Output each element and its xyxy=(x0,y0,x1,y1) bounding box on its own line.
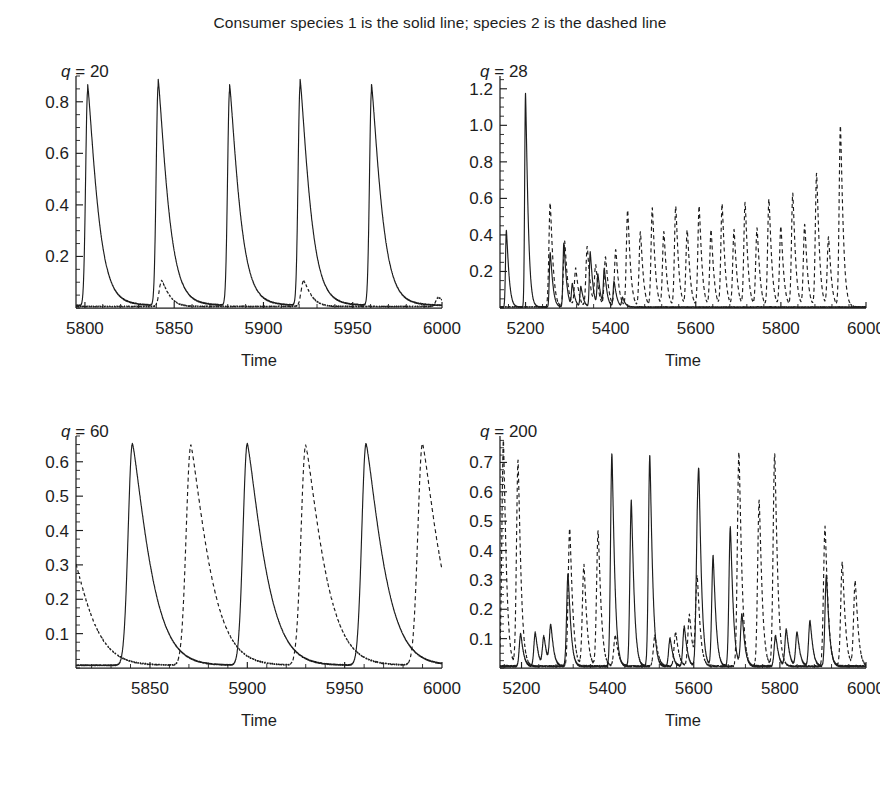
panel-q20-plot: 0.20.40.60.858005850590059506000Time xyxy=(28,58,448,388)
y-tick-label: 0.5 xyxy=(469,512,493,531)
y-tick-label: 0.6 xyxy=(469,189,493,208)
panel-q28-label: q = 28 xyxy=(480,62,528,82)
panel-q28: q = 28 0.20.40.60.81.01.2520054005600580… xyxy=(452,58,872,388)
panel-q200-label: q = 200 xyxy=(480,422,537,442)
y-tick-label: 0.2 xyxy=(45,590,69,609)
x-tick-label: 5800 xyxy=(762,319,800,338)
y-tick-label: 0.2 xyxy=(45,247,69,266)
y-tick-label: 1.2 xyxy=(469,80,493,99)
x-tick-label: 5850 xyxy=(155,319,193,338)
y-tick-label: 0.8 xyxy=(45,93,69,112)
x-tick-label: 6000 xyxy=(847,319,880,338)
x-tick-label: 5200 xyxy=(503,679,541,698)
panel-q20-label-value: 20 xyxy=(90,62,109,81)
y-tick-label: 1.0 xyxy=(469,116,493,135)
y-tick-label: 0.8 xyxy=(469,153,493,172)
panel-q200-label-value: 200 xyxy=(509,422,537,441)
series-line-species-2 xyxy=(76,444,442,666)
panel-q60-plot: 0.10.20.30.40.50.65850590059506000Time xyxy=(28,418,448,748)
panel-q60: q = 60 0.10.20.30.40.50.6585059005950600… xyxy=(28,418,448,748)
x-tick-label: 5950 xyxy=(326,679,364,698)
x-tick-label: 5800 xyxy=(761,679,799,698)
y-tick-label: 0.6 xyxy=(45,144,69,163)
y-tick-label: 0.4 xyxy=(469,226,493,245)
panel-q200-label-eq: = xyxy=(494,422,504,441)
y-tick-label: 0.1 xyxy=(45,625,69,644)
x-tick-label: 5850 xyxy=(131,679,169,698)
x-tick-label: 5800 xyxy=(66,319,104,338)
y-tick-label: 0.4 xyxy=(469,542,493,561)
y-tick-label: 0.3 xyxy=(45,556,69,575)
panel-q60-label: q = 60 xyxy=(61,422,109,442)
x-axis-title: Time xyxy=(241,711,277,729)
x-tick-label: 5400 xyxy=(592,319,630,338)
panel-q200-plot: 0.10.20.30.40.50.60.75200540056005800600… xyxy=(452,418,872,748)
y-tick-label: 0.3 xyxy=(469,571,493,590)
x-axis-title: Time xyxy=(665,711,701,729)
x-tick-label: 5200 xyxy=(507,319,545,338)
series-line-species-1 xyxy=(500,454,866,667)
panel-q28-label-value: 28 xyxy=(509,62,528,81)
y-tick-label: 0.6 xyxy=(469,483,493,502)
y-tick-label: 0.4 xyxy=(45,196,69,215)
panel-q20-label: q = 20 xyxy=(61,62,109,82)
y-tick-label: 0.2 xyxy=(469,262,493,281)
panel-q20-label-eq: = xyxy=(75,62,85,81)
panel-q20: q = 20 0.20.40.60.858005850590059506000T… xyxy=(28,58,448,388)
x-tick-label: 5900 xyxy=(228,679,266,698)
series-line-species-1 xyxy=(76,79,442,306)
x-tick-label: 5900 xyxy=(245,319,283,338)
series-line-species-1 xyxy=(500,93,866,307)
x-tick-label: 5400 xyxy=(589,679,627,698)
x-axis-title: Time xyxy=(241,351,277,369)
x-tick-label: 5600 xyxy=(675,679,713,698)
panel-q28-label-var: q xyxy=(480,62,489,81)
y-tick-label: 0.2 xyxy=(469,600,493,619)
panel-q20-label-var: q xyxy=(61,62,70,81)
y-tick-label: 0.5 xyxy=(45,487,69,506)
x-tick-label: 5600 xyxy=(677,319,715,338)
y-tick-label: 0.1 xyxy=(469,630,493,649)
panel-q200-label-var: q xyxy=(480,422,489,441)
panel-q200: q = 200 0.10.20.30.40.50.60.752005400560… xyxy=(452,418,872,748)
x-axis-title: Time xyxy=(665,351,701,369)
x-tick-label: 5950 xyxy=(334,319,372,338)
panel-q28-plot: 0.20.40.60.81.01.252005400560058006000Ti… xyxy=(452,58,872,388)
y-tick-label: 0.6 xyxy=(45,453,69,472)
x-tick-label: 6000 xyxy=(847,679,880,698)
y-tick-label: 0.4 xyxy=(45,522,69,541)
series-line-species-1 xyxy=(76,443,442,665)
panel-q60-label-var: q xyxy=(61,422,70,441)
panel-q28-label-eq: = xyxy=(494,62,504,81)
figure-title: Consumer species 1 is the solid line; sp… xyxy=(0,14,880,32)
series-line-species-2 xyxy=(500,126,866,308)
panel-q60-label-eq: = xyxy=(75,422,85,441)
panel-q60-label-value: 60 xyxy=(90,422,109,441)
figure-root: Consumer species 1 is the solid line; sp… xyxy=(0,0,880,789)
y-tick-label: 0.7 xyxy=(469,453,493,472)
